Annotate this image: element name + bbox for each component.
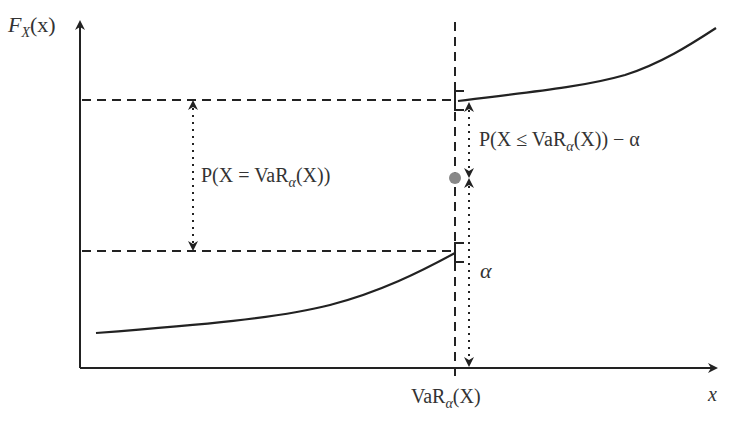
cdf-lower-curve (96, 253, 455, 333)
var-tick-label: VaRα(X) (411, 386, 481, 406)
lower-bracket (455, 243, 464, 262)
var-point (449, 172, 461, 184)
x-axis-label: x (708, 384, 717, 404)
y-axis-label: FX(x) (8, 14, 56, 36)
cdf-upper-curve (458, 28, 716, 101)
cdf-diagram (0, 0, 729, 421)
jump-probability-label: P(X = VaRα(X)) (201, 165, 330, 185)
upper-gap-arrowhead-bottom (464, 168, 474, 178)
upper-gap-label: P(X ≤ VaRα(X)) − α (479, 129, 640, 149)
alpha-label: α (480, 260, 492, 282)
alpha-arrowhead-bottom (464, 357, 474, 367)
